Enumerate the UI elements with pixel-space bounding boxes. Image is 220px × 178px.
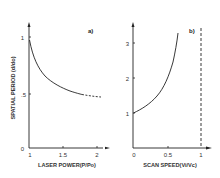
panel-a-xtick-2: 2: [95, 152, 99, 158]
panel-a-x-arrow-icon: [105, 147, 110, 149]
panel-a-xlabel: LASER POWER(P/Po): [38, 162, 96, 168]
panel-b-xtick-0-5: 0.5: [164, 152, 173, 158]
panel-a-xtick-1: 1: [28, 152, 32, 158]
panel-b-xlabel: SCAN SPEED(Vi/Vc): [143, 162, 197, 168]
panel-a-xtick-1-5: 1.5: [59, 152, 68, 158]
panel-a-y-arrow-icon: [28, 22, 31, 27]
panel-b-ytick-2: 2: [126, 76, 130, 82]
panel-a-ytick-0: 0: [21, 146, 25, 152]
panel-a-tag: a): [88, 28, 93, 34]
panel-a: 1 .5 0 1 1.5 2 LASER POWER(P/Po) SPATIAL…: [10, 22, 103, 168]
panel-a-curve-solid: [30, 40, 83, 95]
panel-b-ytick-1: 1: [126, 111, 130, 117]
figure: 1 .5 0 1 1.5 2 LASER POWER(P/Po) SPATIAL…: [0, 0, 220, 178]
panel-b-x-arrow-icon: [206, 147, 212, 150]
panel-b-xtick-0: 0: [132, 152, 136, 158]
panel-a-ytick-0-5: .5: [21, 92, 27, 98]
panel-a-ytick-1: 1: [21, 35, 25, 41]
panel-b-curve: [134, 33, 179, 113]
panel-a-ylabel: SPATIAL PERIOD (d/do): [10, 56, 16, 119]
panel-a-curve-dashed: [82, 95, 101, 98]
panel-b-y-arrow-icon: [132, 22, 135, 27]
panel-b-xtick-1: 1: [199, 152, 203, 158]
panel-b: 3 2 1 0 0.5 1 SCAN SPEED(Vi/Vc) b): [126, 22, 212, 168]
panel-b-tag: b): [189, 28, 195, 34]
panel-b-ytick-3: 3: [126, 41, 130, 47]
